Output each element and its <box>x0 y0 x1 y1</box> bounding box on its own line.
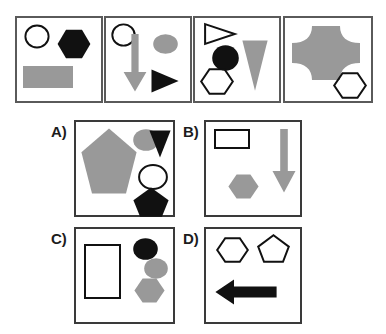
triangle-down-gray <box>242 40 268 91</box>
rectangle-outline <box>214 129 250 149</box>
option-d-panel[interactable] <box>204 227 302 324</box>
pentagon-outline <box>257 234 290 263</box>
rectangle-outline-tall <box>84 244 121 299</box>
pentagon-gray-large <box>81 128 137 194</box>
arrow-down-gray <box>272 129 296 193</box>
triangle-down-black <box>149 130 171 158</box>
sequence-panel-4[interactable] <box>283 16 373 103</box>
circle-outline <box>24 24 50 49</box>
hexagon-outline <box>200 68 234 95</box>
option-c-panel[interactable] <box>74 227 175 324</box>
option-a-panel[interactable] <box>74 120 175 217</box>
option-c-label: C) <box>51 231 66 246</box>
pentagon-black <box>133 187 169 217</box>
option-b-label: B) <box>183 124 198 139</box>
ellipse-gray <box>153 34 178 54</box>
hexagon-gray <box>134 278 165 303</box>
triangle-right-black <box>151 69 179 93</box>
ellipse-gray <box>144 258 168 279</box>
circle-black <box>133 238 158 260</box>
puzzle-canvas: A) B) C) <box>0 0 386 334</box>
option-a-label: A) <box>51 124 66 139</box>
option-b-panel[interactable] <box>204 120 302 217</box>
sequence-panel-1[interactable] <box>15 16 103 103</box>
rectangle-gray <box>23 66 73 88</box>
triangle-right-outline <box>204 23 236 45</box>
option-d-label: D) <box>183 231 198 246</box>
hexagon-outline <box>216 237 249 263</box>
arrow-down-gray <box>123 34 147 92</box>
sequence-panel-2[interactable] <box>104 16 192 103</box>
arrow-left-black <box>215 279 277 305</box>
hexagon-gray <box>228 174 259 199</box>
hexagon-outline <box>333 72 367 99</box>
hexagon-black <box>57 29 91 59</box>
sequence-panel-3[interactable] <box>193 16 281 103</box>
